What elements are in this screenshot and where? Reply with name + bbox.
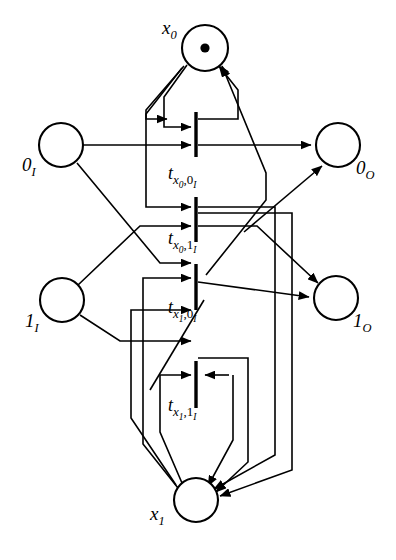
place-x1[interactable] [174, 478, 218, 522]
place-1I[interactable] [40, 278, 84, 322]
place-label-x1: x1 [150, 504, 165, 527]
token-x0 [200, 43, 209, 52]
transition-label-t-x0-1I: tx0,1I [168, 229, 196, 255]
place-0I[interactable] [39, 123, 83, 167]
arc-t-x0-1I-to-1O [198, 226, 318, 283]
place-label-1O: 1O [353, 311, 372, 334]
place-1O[interactable] [314, 276, 358, 320]
transition-label-t-x0-0I: tx0,0I [168, 164, 196, 190]
arc-t-x1-0I-to-x0 [206, 66, 266, 275]
place-label-0I: 0I [22, 155, 36, 178]
transition-label-t-x1-0I: tx1,0I [168, 298, 196, 324]
place-0O[interactable] [316, 123, 360, 167]
arc-t-x0-0I-to-x0 [198, 66, 238, 119]
place-label-0O: 0O [356, 158, 375, 181]
arc-t-x1-1I-to-x1 [208, 375, 233, 486]
petri-net-canvas [0, 0, 396, 560]
arc-0O-lower-feed [244, 166, 322, 232]
transition-label-t-x1-1I: tx1,1I [168, 396, 196, 422]
place-label-x0: x0 [162, 18, 177, 41]
petri-net-figure: x0 0I 0O 1I 1O x1 tx0,0I tx0,1I tx1,0I t… [0, 0, 396, 560]
arc-t-x0-1I-to-x1 [198, 207, 275, 489]
place-label-1I: 1I [25, 311, 39, 334]
arc-t-x1-1I-to-0O [198, 358, 248, 492]
arc-outer-right-to-x1 [198, 213, 292, 496]
